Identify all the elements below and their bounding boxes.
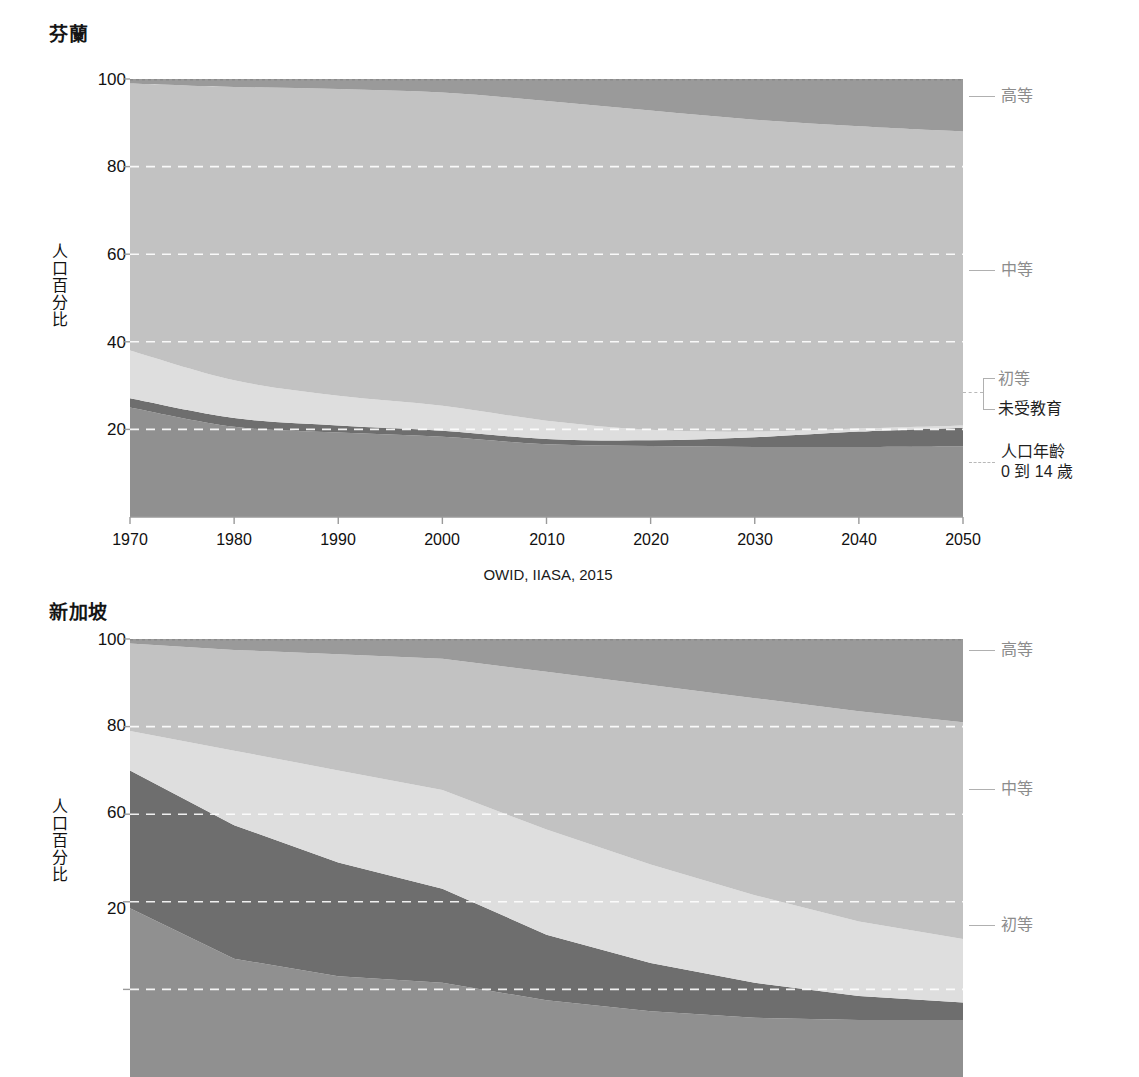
y-tick-80-singapore: 80 (80, 717, 126, 734)
area-band-3 (130, 83, 963, 431)
y-tick-60: 60 (80, 246, 126, 263)
y-tick-40-singapore: 20 (80, 900, 126, 917)
x-tick-1970: 1970 (112, 531, 148, 549)
series-label-secondary-singapore: 中等 (1001, 779, 1033, 799)
x-tick-2050: 2050 (945, 531, 981, 549)
leader-line-tertiary (969, 96, 995, 97)
y-tick-100: 100 (80, 71, 126, 88)
x-tick-1990: 1990 (320, 531, 356, 549)
x-tick-2010: 2010 (529, 531, 565, 549)
series-label-primary-singapore: 初等 (1001, 915, 1033, 935)
chart-title-singapore: 新加坡 (49, 597, 108, 624)
leader-line-tertiary-singapore (969, 650, 995, 651)
series-label-no-education: 未受教育 (998, 399, 1062, 419)
y-tick-80: 80 (80, 158, 126, 175)
chart-panel-finland: 芬蘭 人口百分比 100 80 60 40 20 1970 198 (0, 0, 1139, 590)
x-tick-2030: 2030 (737, 531, 773, 549)
stacked-area-svg-finland (130, 79, 963, 517)
y-tick-60-singapore: 60 (80, 804, 126, 821)
series-label-tertiary: 高等 (1001, 86, 1033, 106)
series-label-age-0-14: 人口年齡 0 到 14 歲 (1001, 442, 1073, 482)
plot-area-finland (130, 79, 963, 517)
x-tick-2000: 2000 (424, 531, 460, 549)
x-tick-2020: 2020 (633, 531, 669, 549)
bracket-primary-noeducation (983, 378, 995, 410)
series-label-age-0-14-line1: 人口年齡 (1001, 443, 1065, 460)
leader-line-secondary (969, 270, 995, 271)
series-label-tertiary-singapore: 高等 (1001, 640, 1033, 660)
x-tick-1980: 1980 (216, 531, 252, 549)
series-label-age-0-14-line2: 0 到 14 歲 (1001, 463, 1073, 480)
leader-line-primary-noed (963, 392, 983, 393)
chart-title-finland: 芬蘭 (49, 19, 88, 46)
source-note: OWID, IIASA, 2015 (483, 566, 612, 583)
leader-line-secondary-singapore (969, 789, 995, 790)
x-tick-2040: 2040 (841, 531, 877, 549)
y-axis-title-singapore: 人口百分比 (50, 798, 66, 883)
plot-area-singapore (130, 639, 963, 939)
leader-line-primary-singapore (969, 925, 995, 926)
y-tick-40: 40 (80, 334, 126, 351)
y-axis-title-finland: 人口百分比 (50, 243, 66, 328)
chart-panel-singapore: 新加坡 人口百分比 100 80 60 20 高等 中等 初等 (0, 590, 1139, 939)
leader-line-age-0-14 (969, 462, 995, 463)
y-tick-100-singapore: 100 (80, 631, 126, 648)
stacked-area-svg-singapore (130, 639, 963, 1077)
y-tick-20: 20 (80, 421, 126, 438)
series-label-secondary: 中等 (1001, 260, 1033, 280)
series-label-primary: 初等 (998, 369, 1030, 389)
